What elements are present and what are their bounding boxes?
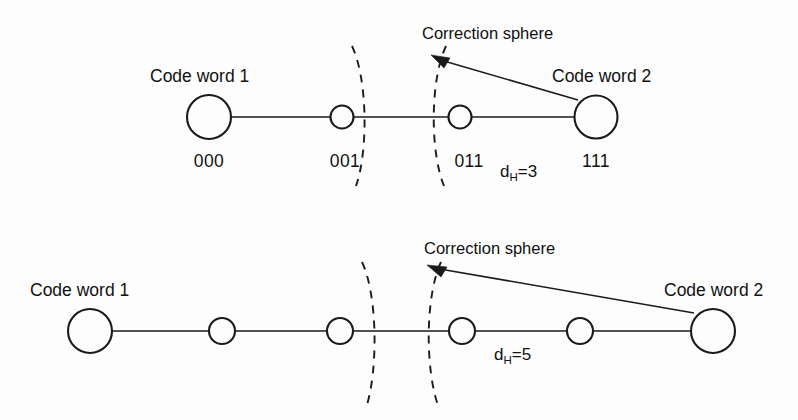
codeword-2-label: Code word 2 xyxy=(552,66,651,86)
diagram-canvas: Code word 1 Code word 2 Correction spher… xyxy=(0,0,798,420)
codeword-1-label: Code word 1 xyxy=(30,280,129,300)
hamming-distance-label: dH=3 xyxy=(500,162,537,183)
hamming-distance-5-panel: Code word 1 Code word 2 Correction spher… xyxy=(30,239,763,408)
neighbour-node-1[interactable] xyxy=(209,318,235,344)
neighbour-node-011[interactable] xyxy=(449,106,472,129)
correction-sphere-arrow-icon xyxy=(431,55,450,68)
hamming-distance-subscript: H xyxy=(503,354,511,366)
hamming-distance-symbol: d xyxy=(494,345,503,364)
hamming-distance-subscript: H xyxy=(509,171,517,183)
codeword-1-label: Code word 1 xyxy=(150,66,249,86)
neighbour-node-001[interactable] xyxy=(331,106,354,129)
hamming-distance-symbol: d xyxy=(500,162,509,181)
neighbour-node-4[interactable] xyxy=(567,318,593,344)
correction-sphere-leader-line xyxy=(434,268,694,313)
hamming-distance-value: =3 xyxy=(518,162,537,181)
codeword-2-node[interactable] xyxy=(691,309,735,353)
correction-sphere-arc-left xyxy=(362,262,375,408)
correction-sphere-label: Correction sphere xyxy=(424,239,555,257)
neighbour-011-bits: 011 xyxy=(454,151,483,171)
correction-sphere-arrow-icon xyxy=(427,265,447,277)
correction-sphere-label: Correction sphere xyxy=(422,24,553,42)
neighbour-001-bits: 001 xyxy=(330,151,360,171)
codeword-1-bits: 000 xyxy=(194,151,224,171)
codeword-2-label: Code word 2 xyxy=(664,280,763,300)
hamming-distance-label: dH=5 xyxy=(494,345,531,366)
hamming-distance-3-panel: Code word 1 Code word 2 Correction spher… xyxy=(150,24,651,186)
correction-sphere-arc-right xyxy=(429,262,441,408)
codeword-1-node[interactable] xyxy=(68,309,112,353)
neighbour-node-2[interactable] xyxy=(327,318,353,344)
hamming-distance-value: =5 xyxy=(512,345,531,364)
codeword-2-bits: 111 xyxy=(582,151,610,171)
codeword-1-node[interactable] xyxy=(187,95,231,139)
codeword-2-node[interactable] xyxy=(575,96,618,139)
neighbour-node-3[interactable] xyxy=(449,318,475,344)
diagram-root: Code word 1 Code word 2 Correction spher… xyxy=(0,0,798,420)
